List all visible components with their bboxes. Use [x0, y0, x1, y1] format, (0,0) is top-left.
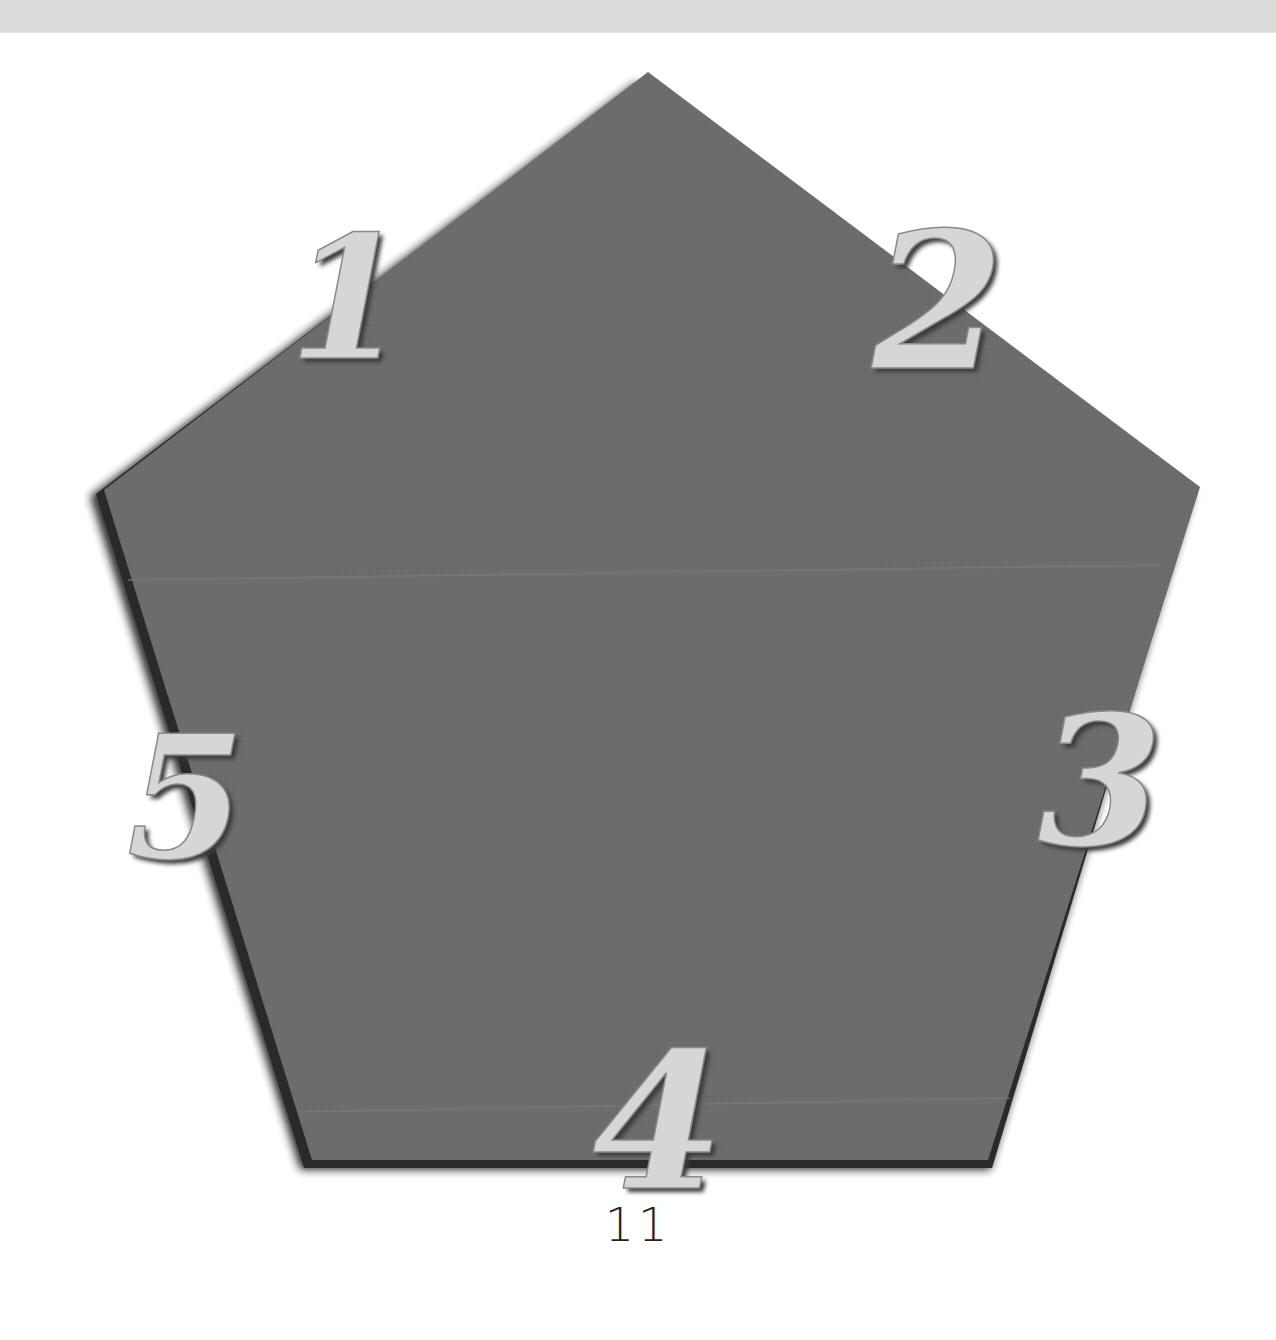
svg-text:2: 2: [871, 190, 1004, 413]
side-label-5: 5 5: [127, 698, 249, 902]
pentagon-figure: 1 1 2 2 3 3 4 4 5 5: [0, 0, 1276, 1340]
side-label-2: 2 2: [871, 190, 1008, 417]
side-label-1: 1 1: [289, 198, 411, 402]
svg-text:1: 1: [289, 198, 407, 398]
pentagon-shape: [104, 72, 1200, 1160]
svg-text:3: 3: [1037, 675, 1162, 886]
svg-text:5: 5: [127, 698, 245, 898]
page-number: 11: [0, 1198, 1276, 1252]
side-label-3: 3 3: [1037, 675, 1166, 890]
